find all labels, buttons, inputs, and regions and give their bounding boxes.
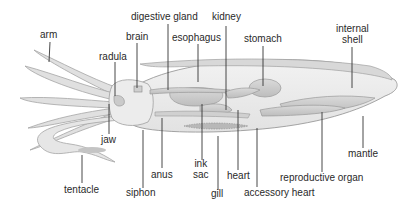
- label-gill: gill: [211, 188, 223, 199]
- label-ink-sac: ink sac: [193, 158, 209, 180]
- label-arm: arm: [40, 29, 57, 40]
- label-internal-shell-line1: internal: [336, 23, 369, 34]
- label-brain: brain: [126, 31, 148, 42]
- label-mantle: mantle: [348, 148, 378, 159]
- label-internal-shell: internal shell: [336, 23, 369, 45]
- label-internal-shell-line2: shell: [336, 34, 369, 45]
- label-siphon: siphon: [126, 187, 155, 198]
- label-tentacle: tentacle: [64, 184, 99, 195]
- label-radula: radula: [99, 51, 127, 62]
- label-reproductive-organ: reproductive organ: [280, 172, 363, 183]
- label-esophagus: esophagus: [172, 32, 221, 43]
- label-ink-sac-line2: sac: [193, 169, 209, 180]
- squid-anatomy-diagram: arm radula brain digestive gland esophag…: [0, 0, 415, 205]
- label-stomach: stomach: [244, 33, 282, 44]
- label-anus: anus: [151, 169, 173, 180]
- label-accessory-heart: accessory heart: [244, 187, 315, 198]
- label-digestive-gland: digestive gland: [131, 11, 198, 22]
- label-ink-sac-line1: ink: [193, 158, 209, 169]
- label-heart: heart: [227, 170, 250, 181]
- label-kidney: kidney: [212, 11, 241, 22]
- label-jaw: jaw: [101, 134, 116, 145]
